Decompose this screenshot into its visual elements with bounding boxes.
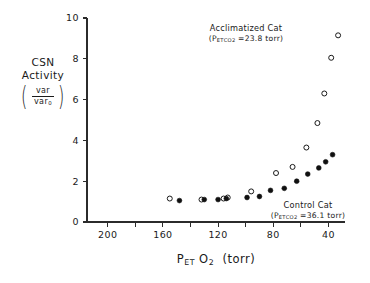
x-axis-label: PET O2 (torr) (87, 252, 345, 267)
y-axis-tick-label: 4 (73, 135, 79, 146)
x-axis-label-sub-et: ET (184, 258, 195, 267)
x-axis-tick-label: 200 (98, 229, 117, 240)
annotation-control-title: Control Cat (252, 200, 364, 211)
fraction-numerator: var (32, 86, 54, 96)
y-axis-fraction: ( var var0 ) (19, 85, 66, 107)
data-point-control (282, 186, 287, 191)
data-point-acclimatized (329, 55, 334, 60)
x-axis-tick-label: 160 (153, 229, 172, 240)
y-axis-label-line2: Activity (8, 69, 78, 82)
x-axis-label-o: O (199, 252, 209, 266)
data-point-control (305, 172, 310, 177)
series-control-points (177, 152, 335, 203)
annotation-control: Control Cat (PETCO2 =36.1 torr) (252, 200, 364, 221)
data-point-control (316, 166, 321, 171)
data-point-control (245, 195, 250, 200)
x-axis-tick-label: 80 (267, 229, 280, 240)
data-point-acclimatized (249, 189, 254, 194)
data-point-acclimatized (290, 164, 295, 169)
data-point-control (323, 159, 328, 164)
y-axis-tick-label: 10 (66, 12, 79, 23)
data-point-control (268, 188, 273, 193)
data-point-acclimatized (336, 33, 341, 38)
y-axis-label: CSN Activity ( var var0 ) (8, 56, 78, 108)
data-point-control (294, 179, 299, 184)
data-point-acclimatized (304, 145, 309, 150)
fraction-denominator: var0 (32, 96, 54, 107)
data-point-control (202, 197, 207, 202)
data-point-acclimatized (315, 121, 320, 126)
annotation-control-detail: (PETCO2 =36.1 torr) (252, 211, 364, 221)
y-axis-label-line1: CSN (8, 56, 78, 69)
data-point-acclimatized (274, 171, 279, 176)
ticks-group (83, 18, 329, 227)
data-point-control (224, 196, 229, 201)
annotation-acclimatized-title: Acclimatized Cat (186, 23, 306, 34)
data-point-control (257, 194, 262, 199)
data-point-acclimatized (322, 91, 327, 96)
data-point-acclimatized (167, 196, 172, 201)
series-acclimatized-points (167, 33, 340, 202)
annotation-acclimatized-detail: (PETCO2 =23.8 torr) (186, 34, 306, 44)
y-axis-tick-label: 2 (73, 176, 79, 187)
data-point-control (177, 198, 182, 203)
scatter-plot-canvas: 20016012080400246810 (0, 0, 370, 283)
annotation-acclimatized: Acclimatized Cat (PETCO2 =23.8 torr) (186, 23, 306, 44)
x-axis-label-units: (torr) (222, 252, 255, 266)
axes-group (87, 18, 345, 222)
x-axis-tick-label: 120 (208, 229, 227, 240)
data-point-control (216, 197, 221, 202)
data-point-control (330, 152, 335, 157)
paren-left-icon: ( (21, 85, 28, 107)
paren-right-icon: ) (58, 85, 65, 107)
x-axis-tick-label: 40 (322, 229, 335, 240)
y-axis-tick-label: 0 (73, 216, 79, 227)
figure-container: 20016012080400246810 CSN Activity ( var … (0, 0, 370, 283)
